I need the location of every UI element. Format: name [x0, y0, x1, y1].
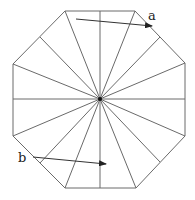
arrow-a: [76, 19, 152, 26]
octagon-diagram: a b: [0, 0, 195, 200]
center-point: [98, 97, 102, 101]
label-a: a: [148, 8, 156, 23]
arrow-b: [33, 157, 106, 164]
label-b: b: [18, 150, 26, 165]
